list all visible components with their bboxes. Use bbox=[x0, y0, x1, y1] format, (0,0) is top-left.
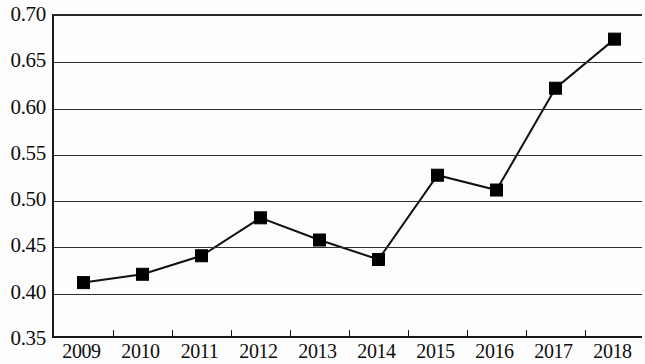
y-axis-tick-label: 0.35 bbox=[0, 328, 46, 349]
x-axis-tick bbox=[585, 330, 586, 337]
plot-area bbox=[52, 14, 642, 338]
data-point-marker bbox=[196, 250, 208, 262]
y-axis-tick-label: 0.65 bbox=[0, 50, 46, 71]
x-axis-tick-labels: 2009201020112012201320142015201620172018 bbox=[52, 341, 642, 364]
gridline bbox=[54, 109, 642, 110]
x-axis-tick bbox=[467, 330, 468, 337]
gridline bbox=[54, 201, 642, 202]
data-point-marker bbox=[550, 82, 562, 94]
x-axis-tick-label: 2016 bbox=[475, 341, 513, 361]
y-axis-tick-label: 0.70 bbox=[0, 4, 46, 25]
x-axis-tick bbox=[349, 330, 350, 337]
data-point-marker bbox=[432, 169, 444, 181]
y-axis-tick-label: 0.55 bbox=[0, 143, 46, 164]
data-point-marker bbox=[137, 268, 149, 280]
gridline bbox=[54, 247, 642, 248]
x-axis-tick bbox=[172, 330, 173, 337]
data-point-marker bbox=[314, 234, 326, 246]
series-line bbox=[84, 39, 615, 282]
x-axis-tick-label: 2017 bbox=[534, 341, 572, 361]
x-axis-tick-label: 2018 bbox=[593, 341, 631, 361]
x-axis-tick bbox=[526, 330, 527, 337]
y-axis-tick-label: 0.40 bbox=[0, 282, 46, 303]
data-point-marker bbox=[491, 184, 503, 196]
x-axis-tick-label: 2012 bbox=[239, 341, 277, 361]
x-axis-tick bbox=[231, 330, 232, 337]
y-axis-tick-label: 0.60 bbox=[0, 97, 46, 118]
line-chart: 0.700.650.600.550.500.450.400.35 2009201… bbox=[0, 0, 645, 364]
data-point-marker bbox=[78, 277, 90, 289]
x-axis-tick bbox=[113, 330, 114, 337]
gridline bbox=[54, 155, 642, 156]
x-axis-tick-label: 2015 bbox=[416, 341, 454, 361]
y-axis-tick-label: 0.45 bbox=[0, 235, 46, 256]
x-axis-tick-label: 2011 bbox=[181, 341, 219, 361]
data-point-marker bbox=[255, 212, 267, 224]
x-axis-tick-label: 2009 bbox=[62, 341, 100, 361]
x-axis-tick bbox=[290, 330, 291, 337]
y-axis-tick-label: 0.50 bbox=[0, 189, 46, 210]
x-axis-tick bbox=[408, 330, 409, 337]
gridline bbox=[54, 294, 642, 295]
data-series-layer bbox=[54, 16, 644, 340]
x-axis-tick-label: 2014 bbox=[357, 341, 395, 361]
x-axis-tick-label: 2013 bbox=[298, 341, 336, 361]
gridline bbox=[54, 62, 642, 63]
x-axis-tick-label: 2010 bbox=[121, 341, 159, 361]
data-point-marker bbox=[373, 253, 385, 265]
data-point-marker bbox=[609, 33, 621, 45]
